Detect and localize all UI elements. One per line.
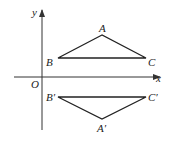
- y-axis-label: y: [31, 6, 37, 18]
- vertex-a-label: A: [98, 22, 106, 34]
- vertex-b-label: B: [46, 56, 53, 68]
- reflection-diagram: x y O A B C B′ C′ A′: [0, 0, 169, 142]
- triangle-abc: [58, 35, 146, 58]
- x-axis-label: x: [155, 72, 161, 84]
- vertex-a-prime-label: A′: [96, 122, 107, 134]
- vertex-c-label: C: [148, 56, 156, 68]
- triangle-a-prime-b-prime-c-prime: [58, 97, 146, 119]
- origin-label: O: [31, 78, 39, 90]
- vertex-c-prime-label: C′: [148, 91, 158, 103]
- vertex-b-prime-label: B′: [46, 91, 56, 103]
